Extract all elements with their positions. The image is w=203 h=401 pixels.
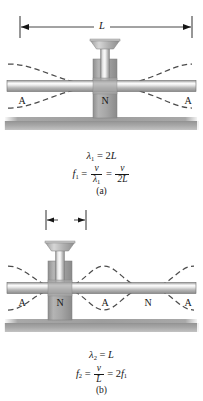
- equation-frequency-a: f1 = v λ1 = v 2L: [0, 163, 203, 185]
- panel-caption-a: (a): [0, 186, 203, 196]
- panel-a-fundamental-mode: L A N A λ1 = 2L f1 = v λ1 = v: [0, 0, 203, 202]
- marker-label-a-2: A: [181, 96, 195, 106]
- panel-b-scene: [0, 202, 203, 342]
- equals-b3: =: [107, 368, 113, 379]
- lambda-subscript-a: 1: [91, 155, 94, 162]
- variable-a: L: [111, 150, 117, 161]
- fraction-denominator-a1: λ1: [91, 175, 102, 185]
- equals-b1: =: [100, 349, 106, 360]
- lambda-subscript-b: 2: [94, 354, 97, 361]
- marker-label-b-4: A: [181, 298, 195, 308]
- marker-label-b-2: A: [98, 298, 112, 308]
- f-subscript-a: 1: [75, 173, 78, 180]
- panel-caption-b: (b): [0, 385, 203, 395]
- clamp-jaw: [93, 78, 117, 94]
- variable-b: L: [108, 349, 114, 360]
- marker-label-b-0: A: [15, 298, 29, 308]
- clamp-knob: [90, 39, 120, 49]
- equals-a3: =: [106, 168, 112, 179]
- f1-subscript-b: 1: [124, 373, 127, 380]
- fraction-denominator-a2: 2L: [115, 175, 129, 185]
- equation-frequency-b: f2 = v L = 2f1: [0, 363, 203, 385]
- dimension-line-L4: [46, 210, 86, 230]
- standing-wave-figure: L A N A λ1 = 2L f1 = v λ1 = v: [0, 0, 203, 401]
- dimension-label-L: L: [94, 21, 110, 32]
- fraction-v-over-2L-a: v 2L: [115, 164, 129, 184]
- fraction-v-over-lambda-a: v λ1: [91, 164, 102, 185]
- fraction-denominator-b1: L: [94, 375, 103, 385]
- panel-b-second-harmonic: L 4 A N A N A λ2 = L f2 = v L =: [0, 202, 203, 401]
- f-subscript-b: 2: [79, 373, 82, 380]
- metal-rod: [7, 283, 196, 294]
- marker-label-a-1: N: [98, 96, 112, 106]
- clamp-knob: [45, 241, 75, 251]
- equals-b2: =: [85, 368, 91, 379]
- equation-wavelength-b: λ2 = L: [0, 344, 203, 362]
- equals-a2: =: [81, 168, 87, 179]
- fraction-v-over-L-b: v L: [94, 364, 103, 384]
- marker-label-a-0: A: [15, 96, 29, 106]
- equation-wavelength-a: λ1 = 2L: [0, 145, 203, 163]
- marker-label-b-1: N: [53, 298, 67, 308]
- equals-a1: =: [97, 150, 103, 161]
- clamp-jaw: [48, 280, 72, 296]
- marker-label-b-3: N: [141, 298, 155, 308]
